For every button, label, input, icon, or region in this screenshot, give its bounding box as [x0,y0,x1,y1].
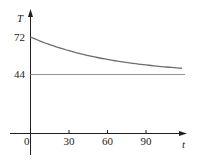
chart: T t 0 30 60 90 72 44 [0,0,198,161]
y-tick-label-44: 44 [14,68,26,80]
x-axis-arrow-icon [179,131,187,136]
y-axis-label: T [17,12,24,24]
x-tick-label-60: 60 [102,135,114,147]
y-tick-label-72: 72 [14,31,25,43]
origin-label: 0 [24,135,30,147]
x-tick-label-30: 30 [64,135,76,147]
y-axis-arrow-icon [28,9,33,17]
x-axis-label: t [182,138,186,150]
x-tick-label-90: 90 [141,135,153,147]
cooling-curve [31,37,182,68]
